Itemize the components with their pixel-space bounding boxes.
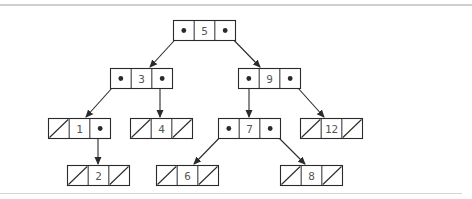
left-pointer-dot-icon xyxy=(181,28,186,33)
right-pointer-dot-icon xyxy=(288,76,293,81)
right-pointer-dot-icon xyxy=(223,28,228,33)
left-pointer-dot-icon xyxy=(246,76,251,81)
right-pointer-dot-icon xyxy=(160,76,165,81)
node-value: 8 xyxy=(308,170,315,183)
tree-node-4: 4 xyxy=(131,119,193,139)
node-value: 3 xyxy=(138,73,145,86)
left-pointer-dot-icon xyxy=(118,76,123,81)
binary-tree-diagram: 53914712268 xyxy=(0,0,472,199)
tree-node-2: 2 xyxy=(68,166,130,186)
right-pointer-dot-icon xyxy=(268,126,273,131)
tree-node-9: 9 xyxy=(239,69,301,89)
node-value: 5 xyxy=(201,25,208,38)
edges-layer xyxy=(86,30,324,164)
tree-node-12: 12 xyxy=(301,119,363,139)
tree-node-5: 5 xyxy=(174,21,236,41)
node-value: 12 xyxy=(325,123,338,136)
tree-node-6: 6 xyxy=(157,166,219,186)
tree-node-7: 7 xyxy=(219,119,281,139)
tree-node-1: 1 xyxy=(49,119,111,139)
node-value: 9 xyxy=(266,73,273,86)
tree-node-8: 8 xyxy=(281,166,343,186)
right-pointer-dot-icon xyxy=(98,126,103,131)
tree-canvas: 53914712268 xyxy=(0,0,472,199)
nodes-layer: 53914712268 xyxy=(49,21,363,186)
node-value: 6 xyxy=(184,170,191,183)
node-value: 7 xyxy=(246,123,253,136)
tree-node-3: 3 xyxy=(111,69,173,89)
node-value: 2 xyxy=(95,170,102,183)
bottom-rule xyxy=(0,193,462,194)
node-value: 1 xyxy=(76,123,83,136)
left-pointer-dot-icon xyxy=(226,126,231,131)
node-value: 4 xyxy=(158,123,165,136)
